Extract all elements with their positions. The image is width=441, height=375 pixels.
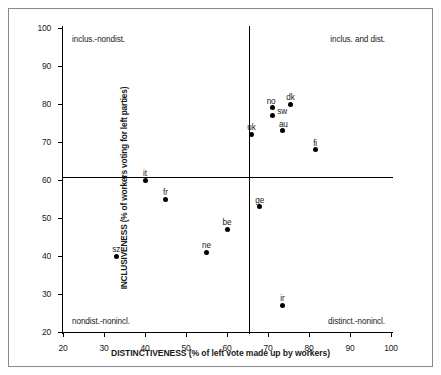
data-point-uk bbox=[249, 132, 254, 137]
x-tick-40: 40 bbox=[145, 332, 146, 337]
data-point-label-sw: sw bbox=[277, 107, 287, 116]
data-point-label-ir: ir bbox=[280, 294, 284, 303]
data-point-label-uk: uk bbox=[247, 123, 255, 132]
data-point-fr bbox=[163, 197, 168, 202]
horizontal-reference-line bbox=[62, 177, 393, 178]
data-point-ne bbox=[204, 250, 209, 255]
data-point-ir bbox=[280, 303, 285, 308]
quadrant-label-inclus-and-dist: inclus. and dist. bbox=[330, 35, 385, 44]
x-tick-90: 90 bbox=[350, 332, 351, 337]
data-point-ge bbox=[257, 204, 262, 209]
quadrant-label-nondist-nonincl: nondist.-nonincl. bbox=[72, 317, 130, 326]
data-point-label-ge: ge bbox=[255, 196, 264, 205]
x-tick-50: 50 bbox=[186, 332, 187, 337]
data-point-label-no: no bbox=[267, 97, 276, 106]
y-tick-40: 40 bbox=[58, 256, 63, 257]
x-tick-30: 30 bbox=[104, 332, 105, 337]
y-axis-title: INCLUSIVENESS (% of workers voting for l… bbox=[119, 86, 129, 289]
scatter-plot-area: 2030405060708090100 2030405060708090100 … bbox=[63, 28, 391, 332]
figure-frame: 2030405060708090100 2030405060708090100 … bbox=[8, 8, 433, 367]
data-point-it bbox=[143, 178, 148, 183]
data-point-no bbox=[270, 105, 275, 110]
data-point-label-au: au bbox=[279, 120, 288, 129]
y-tick-label-70: 70 bbox=[42, 137, 51, 147]
x-tick-20: 20 bbox=[63, 332, 64, 337]
y-tick-label-40: 40 bbox=[42, 251, 51, 261]
y-tick-label-30: 30 bbox=[42, 289, 51, 299]
y-tick-90: 90 bbox=[58, 66, 63, 67]
data-point-be bbox=[225, 227, 230, 232]
quadrant-label-distinct-nonincl: distinct.-nonincl. bbox=[328, 317, 385, 326]
y-tick-label-60: 60 bbox=[42, 175, 51, 185]
y-tick-label-20: 20 bbox=[42, 327, 51, 337]
y-tick-80: 80 bbox=[58, 104, 63, 105]
x-tick-60: 60 bbox=[227, 332, 228, 337]
data-point-dk bbox=[288, 102, 293, 107]
x-axis-title: DISTINCTIVENESS (% of left vote made up … bbox=[9, 348, 432, 358]
y-tick-70: 70 bbox=[58, 142, 63, 143]
data-point-label-ne: ne bbox=[202, 241, 211, 250]
y-tick-label-100: 100 bbox=[37, 23, 51, 33]
data-point-au bbox=[280, 128, 285, 133]
data-point-fi bbox=[313, 147, 318, 152]
data-point-label-fr: fr bbox=[163, 188, 168, 197]
vertical-reference-line bbox=[249, 26, 250, 334]
y-tick-30: 30 bbox=[58, 294, 63, 295]
x-tick-80: 80 bbox=[309, 332, 310, 337]
y-tick-label-80: 80 bbox=[42, 99, 51, 109]
data-point-sw bbox=[270, 113, 275, 118]
y-tick-label-90: 90 bbox=[42, 61, 51, 71]
data-point-label-be: be bbox=[223, 218, 232, 227]
quadrant-label-inclus-nondist: inclus.-nondist. bbox=[72, 35, 125, 44]
data-point-label-dk: dk bbox=[286, 93, 294, 102]
y-tick-100: 100 bbox=[58, 28, 63, 29]
x-tick-70: 70 bbox=[268, 332, 269, 337]
data-point-sz bbox=[114, 254, 119, 259]
y-tick-label-50: 50 bbox=[42, 213, 51, 223]
y-tick-50: 50 bbox=[58, 218, 63, 219]
x-tick-100: 100 bbox=[391, 332, 392, 337]
data-point-label-fi: fi bbox=[313, 139, 317, 148]
data-point-label-it: it bbox=[143, 169, 147, 178]
y-tick-60: 60 bbox=[58, 180, 63, 181]
